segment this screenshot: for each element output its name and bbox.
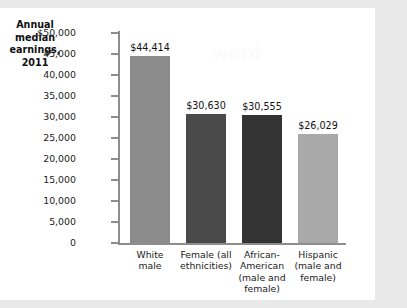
y-axis-tick-mark xyxy=(111,137,118,138)
bottom-gutter xyxy=(0,300,375,308)
bar[interactable] xyxy=(186,114,226,243)
y-axis-tick-mark xyxy=(111,74,118,75)
bar[interactable] xyxy=(242,115,282,243)
x-axis-category-label: African-American(male andfemale) xyxy=(235,249,289,295)
x-axis-line xyxy=(118,243,346,245)
bar-value-label: $26,029 xyxy=(278,120,358,131)
category-label-line: White xyxy=(123,249,177,260)
bar[interactable] xyxy=(130,56,170,243)
y-axis-tick-label: 15,000 xyxy=(12,175,76,185)
plot-area: $50,00045,00040,00035,00030,00025,00020,… xyxy=(0,0,375,292)
category-label-line: African- xyxy=(235,249,289,260)
y-axis-tick-label: 0 xyxy=(12,238,76,248)
y-axis-tick-mark xyxy=(111,32,118,33)
y-axis-tick-label: 30,000 xyxy=(12,112,76,122)
bar-value-label: $30,555 xyxy=(222,101,302,112)
y-axis-tick-label: 35,000 xyxy=(12,91,76,101)
y-axis-tick-mark xyxy=(111,200,118,201)
y-axis-tick-label: 45,000 xyxy=(12,49,76,59)
category-label-line: Female (all xyxy=(179,249,233,260)
x-axis-category-label: Whitemale xyxy=(123,249,177,272)
category-label-line: (male and xyxy=(291,260,345,271)
category-label-line: American xyxy=(235,260,289,271)
y-axis-tick-label: 10,000 xyxy=(12,196,76,206)
x-axis-category-label: Hispanic(male andfemale) xyxy=(291,249,345,283)
y-axis-tick-label: 5,000 xyxy=(12,217,76,227)
top-gutter xyxy=(0,0,375,8)
y-axis-tick-mark xyxy=(111,179,118,180)
category-label-line: female) xyxy=(291,272,345,283)
category-label-line: (male and xyxy=(235,272,289,283)
bar-value-label: $44,414 xyxy=(110,42,190,53)
bar[interactable] xyxy=(298,134,338,243)
category-label-line: Hispanic xyxy=(291,249,345,260)
y-axis-tick-mark xyxy=(111,116,118,117)
y-axis-tick-label: 25,000 xyxy=(12,133,76,143)
y-axis-tick-mark xyxy=(111,53,118,54)
category-label-line: male xyxy=(123,260,177,271)
y-axis-tick-mark xyxy=(111,221,118,222)
category-label-line: ethnicities) xyxy=(179,260,233,271)
chart-page: word Annual median earnings, 2011 Annual… xyxy=(0,0,407,308)
y-axis-tick-mark xyxy=(111,158,118,159)
y-axis-tick-label: $50,000 xyxy=(12,28,76,38)
y-axis-tick-mark xyxy=(111,242,118,243)
y-axis-tick-label: 20,000 xyxy=(12,154,76,164)
y-axis-line xyxy=(118,31,120,244)
x-axis-category-label: Female (allethnicities) xyxy=(179,249,233,272)
y-axis-tick-label: 40,000 xyxy=(12,70,76,80)
y-axis-tick-mark xyxy=(111,95,118,96)
right-gutter xyxy=(375,0,407,308)
category-label-line: female) xyxy=(235,283,289,294)
